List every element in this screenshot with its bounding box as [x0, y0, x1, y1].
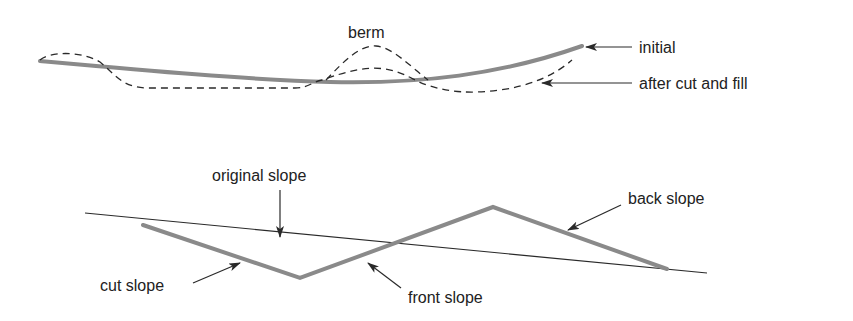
front-slope-pointer-arrow — [368, 263, 401, 288]
cut-profile-polyline — [143, 207, 667, 278]
original-slope-label: original slope — [212, 167, 306, 184]
initial-label: initial — [639, 39, 675, 56]
back-slope-pointer-arrow — [568, 205, 621, 230]
top-diagram: berm initial after cut and fill — [40, 24, 748, 92]
berm-profile-line — [326, 46, 428, 80]
after-cut-and-fill-label: after cut and fill — [639, 75, 748, 92]
initial-profile-line — [40, 46, 582, 82]
back-slope-label: back slope — [628, 190, 705, 207]
front-slope-label: front slope — [408, 289, 483, 306]
berm-label: berm — [348, 24, 384, 41]
bottom-diagram: original slope cut slope front slope bac… — [85, 167, 707, 306]
after-cut-and-fill-profile-line — [40, 54, 572, 93]
cut-and-fill-diagram: berm initial after cut and fill original… — [0, 0, 853, 321]
cut-slope-pointer-arrow — [193, 263, 240, 283]
diagram-svg: berm initial after cut and fill original… — [0, 0, 853, 321]
cut-slope-label: cut slope — [100, 277, 164, 294]
